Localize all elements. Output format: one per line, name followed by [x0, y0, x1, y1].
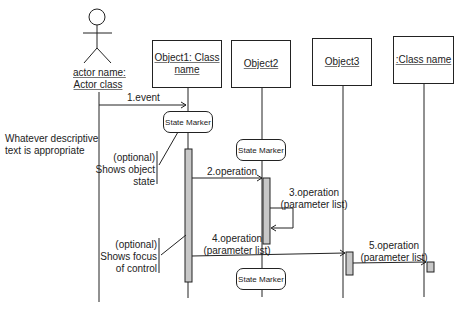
state-marker-3: State Marker	[236, 268, 286, 290]
object1-box: Object1: Classname	[152, 40, 222, 88]
actor-name: actor name:	[73, 67, 123, 79]
state-marker-1: State Marker	[163, 111, 213, 133]
object1-activation	[185, 149, 192, 282]
object-state-note: (optional)Shows objectstate	[95, 152, 155, 188]
message-3-label: 3.operation(parameter list)	[274, 187, 354, 211]
description-note: Whatever descriptivetext is appropriate	[5, 133, 98, 157]
object3-activation	[346, 252, 353, 275]
message-1-label: 1.event	[127, 92, 160, 104]
object3-label: Object3	[325, 56, 359, 68]
object1-label-2: name	[154, 64, 219, 76]
actor-icon	[83, 9, 112, 63]
classname-box: :Class name	[393, 36, 454, 84]
state-marker-2: State Marker	[236, 139, 286, 161]
message-2-label: 2.operation	[207, 166, 257, 178]
focus-control-note: (optional)Shows focusof control	[95, 239, 157, 275]
object1-label: Object1: Class	[154, 52, 219, 64]
message-4-label: 4.operation(parameter list)	[197, 233, 277, 257]
actor-class: Actor class	[73, 79, 123, 91]
message-5-label: 5.operation(parameter list)	[354, 240, 434, 264]
object2-box: Object2	[231, 40, 291, 88]
object3-box: Object3	[312, 38, 372, 86]
classname-label: :Class name	[396, 54, 452, 66]
object2-label: Object2	[244, 58, 278, 70]
